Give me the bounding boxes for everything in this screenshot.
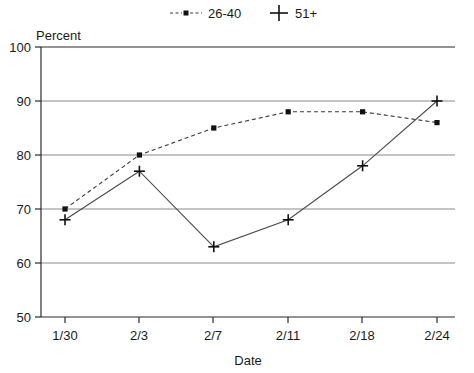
y-axis-tick-labels: 100 90 80 70 60 50 xyxy=(9,40,31,325)
x-tick-label-4: 2/18 xyxy=(349,328,374,343)
data-point-marker xyxy=(62,206,67,211)
x-tick-label-2: 2/7 xyxy=(204,328,222,343)
x-tick-label-5: 2/24 xyxy=(424,328,449,343)
data-point-marker xyxy=(434,120,439,125)
chart-frame xyxy=(41,47,455,317)
legend-item-51plus[interactable]: 51+ xyxy=(270,5,317,21)
series-26-40 xyxy=(62,109,439,211)
x-tick-label-0: 1/30 xyxy=(52,328,77,343)
series-line xyxy=(65,101,437,247)
series-line xyxy=(65,112,437,209)
y-tick-label-100: 100 xyxy=(9,40,31,55)
chart-series-layer xyxy=(60,96,443,253)
legend-label-26-40: 26-40 xyxy=(208,6,241,21)
line-chart: 26-40 51+ Percent xyxy=(0,0,474,373)
y-axis-title: Percent xyxy=(36,28,81,43)
x-axis-ticks xyxy=(65,317,437,323)
legend-square-marker-icon xyxy=(184,11,189,16)
y-tick-label-90: 90 xyxy=(17,94,31,109)
data-point-marker xyxy=(211,125,216,130)
x-tick-label-3: 2/11 xyxy=(276,328,300,343)
legend-item-26-40[interactable]: 26-40 xyxy=(170,6,241,21)
y-axis-ticks xyxy=(35,47,41,317)
data-point-marker xyxy=(286,109,291,114)
data-point-marker xyxy=(360,109,365,114)
y-tick-label-80: 80 xyxy=(17,148,31,163)
chart-legend: 26-40 51+ xyxy=(170,5,317,21)
y-tick-label-50: 50 xyxy=(17,310,31,325)
legend-label-51plus: 51+ xyxy=(295,6,317,21)
chart-gridlines xyxy=(41,101,455,263)
chart-container: 26-40 51+ Percent xyxy=(0,0,474,373)
x-axis-title: Date xyxy=(234,353,261,368)
y-tick-label-60: 60 xyxy=(17,256,31,271)
data-point-marker xyxy=(137,152,142,157)
x-axis-tick-labels: 1/30 2/3 2/7 2/11 2/18 2/24 xyxy=(52,328,449,343)
series-51- xyxy=(60,96,443,253)
x-tick-label-1: 2/3 xyxy=(130,328,148,343)
y-tick-label-70: 70 xyxy=(17,202,31,217)
